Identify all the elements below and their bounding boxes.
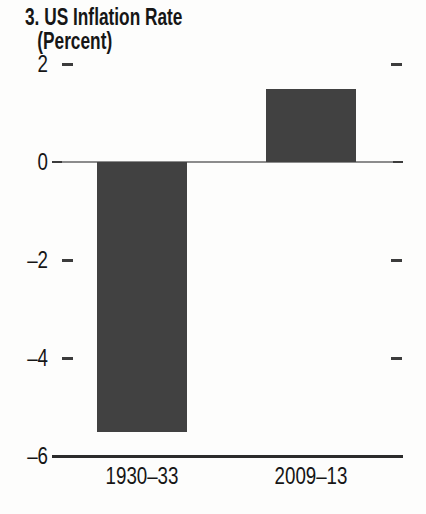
y-tick-label: 0: [11, 149, 48, 175]
chart-title: 3. US Inflation Rate: [25, 5, 182, 29]
y-tick-mark-left: [62, 259, 73, 262]
zero-line-right-cap: [393, 161, 403, 163]
bar-2009-13: [266, 89, 356, 163]
zero-line-left-cap: [52, 161, 62, 163]
y-tick-mark-right: [391, 259, 402, 262]
y-tick-label: –4: [11, 345, 48, 371]
y-tick-mark-right: [391, 357, 402, 360]
y-tick-label: –2: [11, 247, 48, 273]
bar-1930-33: [97, 162, 187, 432]
chart-unit-label: (Percent): [25, 29, 182, 53]
x-axis-line: [52, 455, 403, 458]
y-tick-label: 2: [11, 51, 48, 77]
y-tick-label: –6: [11, 443, 48, 469]
y-tick-mark-right: [391, 63, 402, 66]
figure-canvas: 3. US Inflation Rate (Percent) 20–2–4–61…: [0, 0, 426, 514]
x-tick-label: 1930–33: [87, 463, 196, 489]
y-tick-mark-left: [62, 357, 73, 360]
chart-title-block: 3. US Inflation Rate (Percent): [25, 5, 182, 53]
x-tick-label: 2009–13: [256, 463, 365, 489]
y-tick-mark-left: [62, 63, 73, 66]
